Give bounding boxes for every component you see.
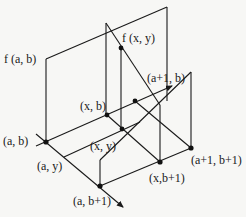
point-x-b1	[157, 159, 162, 164]
label-a1-b1: (a+1, b+1)	[191, 153, 242, 167]
a1-column	[135, 101, 191, 148]
interpolation-diagram: f (a, b) f (x, y) (a+1, b) (x, b) (a, b)…	[0, 0, 246, 217]
point-a1-b1	[188, 145, 193, 150]
label-a-b: (a, b)	[3, 134, 28, 148]
grid-points	[43, 46, 193, 189]
point-a1-b	[133, 99, 138, 104]
label-a-y: (a, y)	[37, 159, 62, 173]
labels: f (a, b) f (x, y) (a+1, b) (x, b) (a, b)…	[3, 31, 242, 208]
label-x-y: (x, y)	[90, 139, 116, 153]
label-f-a-b: f (a, b)	[4, 52, 36, 66]
label-a-b1: (a, b+1)	[73, 194, 111, 208]
point-x-b	[105, 113, 110, 118]
point-x-y	[120, 127, 125, 132]
point-f-x-y	[119, 46, 124, 51]
point-a-b1	[97, 183, 102, 188]
surface	[46, 7, 191, 186]
label-a1-b: (a+1, b)	[147, 71, 185, 85]
point-a-b	[43, 139, 48, 144]
b-row-axis	[36, 86, 172, 146]
label-f-x-y: f (x, y)	[122, 31, 155, 45]
label-x-b: (x, b)	[80, 99, 106, 113]
label-x-b1: (x,b+1)	[149, 171, 185, 185]
